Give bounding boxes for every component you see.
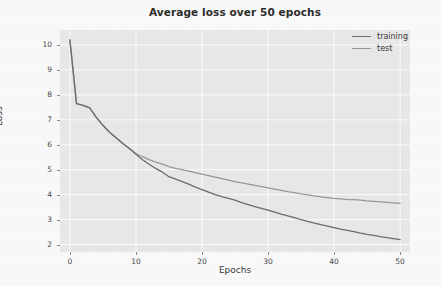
y-tick-label: 6 [26, 140, 52, 149]
legend-swatch-test [352, 48, 371, 49]
y-tick-label: 10 [26, 40, 52, 49]
y-tick-label: 2 [26, 240, 52, 249]
y-tick-mark [57, 170, 60, 171]
chart-title: Average loss over 50 epochs [60, 6, 410, 18]
plot-canvas [60, 30, 410, 252]
y-tick-mark [57, 145, 60, 146]
x-tick-mark [136, 252, 137, 255]
x-tick-mark [400, 252, 401, 255]
y-tick-label: 7 [26, 115, 52, 124]
legend-item-test[interactable]: test [352, 42, 436, 54]
legend-swatch-training [352, 36, 371, 37]
legend-label-training: training [377, 32, 408, 41]
y-tick-mark [57, 120, 60, 121]
x-tick-mark [334, 252, 335, 255]
x-tick-mark [70, 252, 71, 255]
plot-area [60, 30, 410, 252]
y-tick-label: 3 [26, 215, 52, 224]
chart-legend: training test [352, 28, 436, 56]
y-tick-mark [57, 95, 60, 96]
y-tick-mark [57, 70, 60, 71]
y-tick-mark [57, 245, 60, 246]
legend-label-test: test [377, 44, 392, 53]
y-tick-mark [57, 45, 60, 46]
line-series-test [70, 40, 400, 203]
x-axis-label: Epochs [60, 265, 410, 275]
y-tick-label: 9 [26, 65, 52, 74]
gridlines [60, 30, 410, 252]
legend-item-training[interactable]: training [352, 30, 436, 42]
y-tick-mark [57, 195, 60, 196]
y-tick-label: 8 [26, 90, 52, 99]
y-axis-label: Loss [0, 106, 4, 126]
x-tick-mark [268, 252, 269, 255]
y-tick-label: 4 [26, 190, 52, 199]
x-tick-mark [202, 252, 203, 255]
chart-figure: Average loss over 50 epochs 2345678910 0… [0, 0, 441, 286]
y-tick-label: 5 [26, 165, 52, 174]
y-tick-mark [57, 220, 60, 221]
